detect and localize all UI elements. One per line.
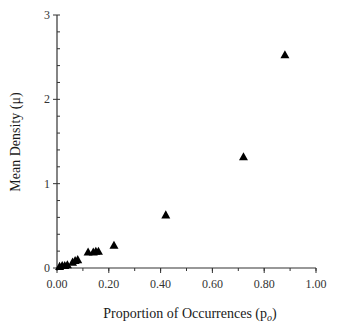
x-tick-label: 0.40 (150, 277, 171, 291)
y-tick-label: 2 (44, 92, 50, 106)
triangle-marker (109, 241, 118, 249)
y-axis-title: Mean Density (μ) (8, 92, 24, 192)
x-tick-label: 0.20 (98, 277, 119, 291)
x-tick-label: 0.00 (47, 277, 68, 291)
triangle-marker (280, 50, 289, 58)
x-tick-label: 1.00 (306, 277, 327, 291)
y-axis: 0123 (44, 8, 60, 275)
y-tick-label: 1 (44, 177, 50, 191)
data-points (55, 50, 289, 270)
y-tick-label: 0 (44, 261, 50, 275)
x-axis-title: Proportion of Occurrences (po) (103, 306, 277, 323)
x-tick-label: 0.60 (202, 277, 223, 291)
triangle-marker (239, 152, 248, 160)
x-tick-label: 0.80 (254, 277, 275, 291)
y-tick-label: 3 (44, 8, 50, 22)
x-axis: 0.000.200.400.600.801.00 (47, 268, 327, 291)
scatter-chart: 0123 0.000.200.400.600.801.00 Mean Densi… (0, 0, 342, 332)
triangle-marker (161, 210, 170, 218)
